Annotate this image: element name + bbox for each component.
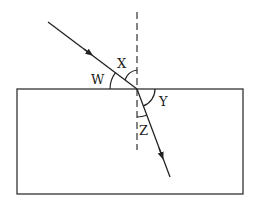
- angle-y-arc: [143, 89, 155, 106]
- refraction-diagram: X W Y Z: [0, 0, 257, 206]
- glass-block: [17, 89, 243, 194]
- label-z: Z: [139, 123, 148, 138]
- angle-w-arc: [110, 73, 116, 89]
- refracted-arrow-icon: [159, 148, 162, 156]
- angle-x-arc: [125, 70, 137, 80]
- label-w: W: [91, 72, 105, 87]
- incident-arrow-icon: [84, 49, 90, 54]
- label-x: X: [117, 56, 127, 71]
- label-y: Y: [158, 94, 168, 109]
- angle-z-arc: [137, 115, 147, 117]
